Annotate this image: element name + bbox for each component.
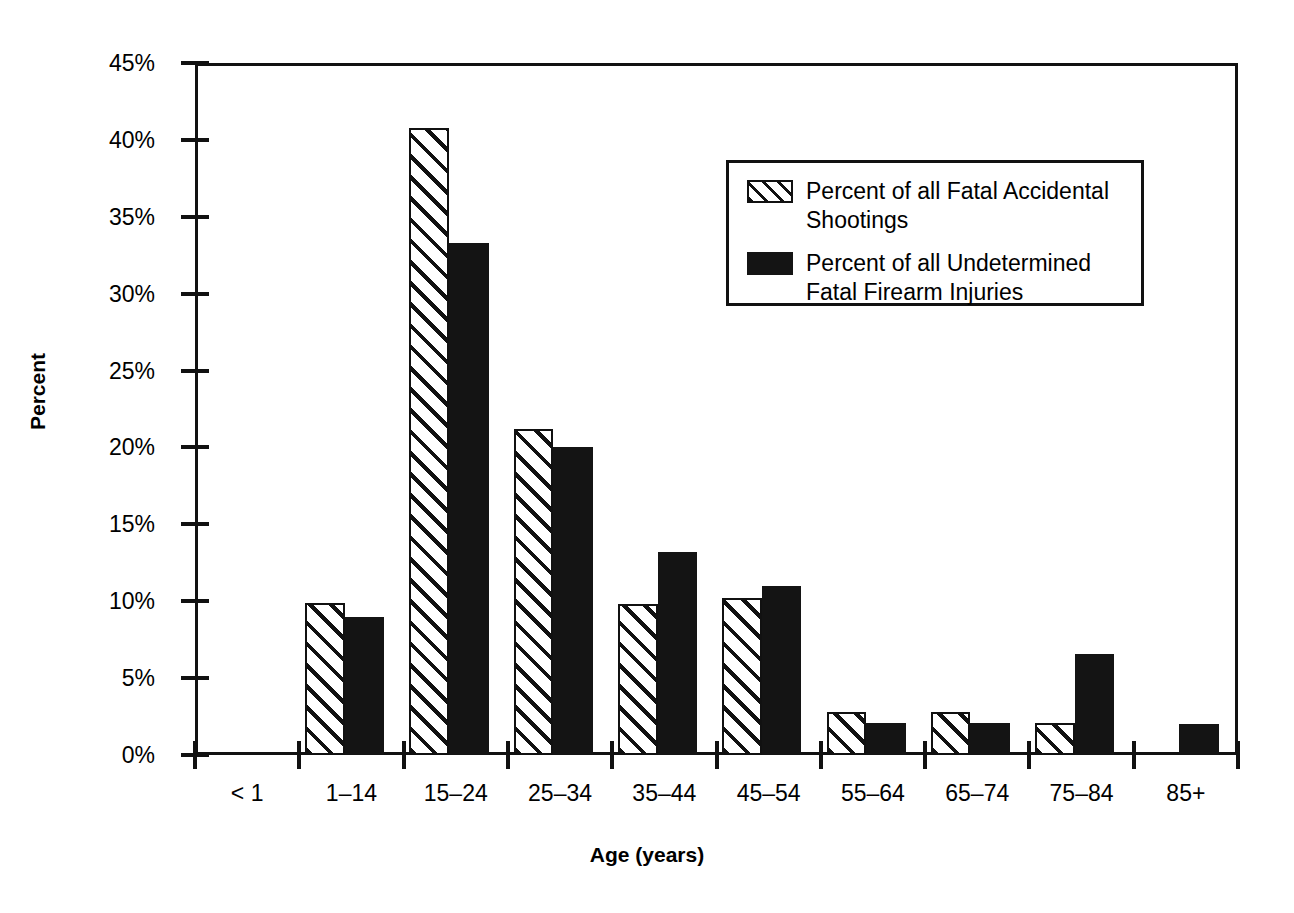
x-tick-mark [610,741,614,769]
bar [658,552,698,755]
bar [1075,654,1115,755]
y-tick-label: 30% [109,280,155,307]
x-tick-mark [1027,741,1031,769]
x-tick-label: 85+ [1166,780,1205,807]
x-tick-mark [1132,741,1136,769]
x-tick-mark [923,741,927,769]
bar [762,586,802,755]
legend-swatch-solid-icon [747,252,793,275]
bar [618,604,658,755]
legend-entry: Percent of all Undetermined Fatal Firear… [747,249,1141,307]
x-tick-mark [402,741,406,769]
bar [449,243,489,755]
bar [931,712,971,755]
x-tick-mark [297,741,301,769]
x-tick-mark [1236,741,1240,769]
y-tick-label: 35% [109,203,155,230]
bar [514,429,554,755]
x-tick-label: 55–64 [841,780,905,807]
y-tick-label: 10% [109,588,155,615]
legend: Percent of all Fatal Accidental Shooting… [726,160,1144,306]
y-tick-label: 15% [109,511,155,538]
y-tick-label: 45% [109,50,155,77]
y-axis-title: Percent [26,353,50,430]
x-tick-label: 25–34 [528,780,592,807]
x-tick-label: 35–44 [632,780,696,807]
y-tick-label: 0% [122,742,155,769]
legend-label: Percent of all Fatal Accidental Shooting… [806,177,1126,235]
bar-chart: 0%5%10%15%20%25%30%35%40%45% Percent < 1… [0,0,1294,913]
legend-swatch-hatched-icon [747,180,793,203]
bar [970,723,1010,755]
bar [345,617,385,755]
bar [827,712,867,755]
y-tick-label: 40% [109,126,155,153]
x-tick-mark [506,741,510,769]
bar [1179,724,1219,755]
bar [722,598,762,755]
legend-entry: Percent of all Fatal Accidental Shooting… [747,177,1141,235]
x-tick-label: < 1 [231,780,264,807]
bar [553,447,593,755]
x-tick-mark [819,741,823,769]
y-axis: 0%5%10%15%20%25%30%35%40%45% [0,0,195,913]
x-axis-title: Age (years) [0,843,1294,867]
bar [305,603,345,755]
y-tick-label: 20% [109,434,155,461]
bar [866,723,906,755]
x-tick-label: 75–84 [1050,780,1114,807]
bar [409,128,449,755]
legend-label: Percent of all Undetermined Fatal Firear… [806,249,1126,307]
bar [1035,723,1075,755]
x-tick-label: 1–14 [326,780,377,807]
x-tick-label: 65–74 [945,780,1009,807]
x-tick-mark [193,741,197,769]
x-tick-mark [715,741,719,769]
y-tick-label: 25% [109,357,155,384]
x-tick-label: 45–54 [737,780,801,807]
y-tick-label: 5% [122,665,155,692]
x-tick-label: 15–24 [424,780,488,807]
